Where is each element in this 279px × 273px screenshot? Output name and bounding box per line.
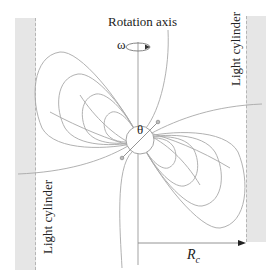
omega-label: ω [117, 37, 126, 53]
rc-subscript: c [196, 254, 200, 265]
light-cylinder-right-label: Light cylinder [228, 12, 244, 86]
field-loop-lr-1 [140, 133, 245, 228]
theta-label: θ [137, 122, 143, 138]
open-line-left-bottom [18, 146, 128, 174]
field-loop-ul-1 [35, 52, 140, 147]
open-line-bottom [120, 152, 132, 268]
open-line-right-top [150, 104, 262, 134]
magnetic-pole-north [156, 120, 160, 124]
pulsar-diagram: Rotation axis ω θ Light cylinder Light c… [0, 0, 279, 273]
rc-arrowhead-icon [238, 240, 246, 246]
rc-label: Rc [187, 247, 200, 265]
rotation-axis-label: Rotation axis [108, 14, 177, 30]
light-cylinder-left-label: Light cylinder [40, 180, 56, 254]
open-line-top [146, 30, 168, 128]
fan-line-4 [80, 95, 132, 144]
fan-line-3 [50, 112, 132, 146]
magnetic-pole-south [120, 156, 124, 160]
rc-symbol: R [187, 247, 196, 262]
